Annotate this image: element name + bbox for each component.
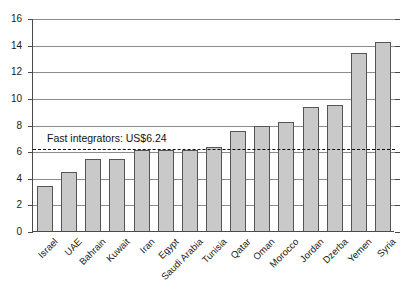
bar-slot	[299, 18, 323, 231]
y-axis-tick-label: 4	[2, 174, 22, 184]
y-axis-tick-right	[395, 19, 400, 20]
y-axis-tick-right	[395, 152, 400, 153]
y-axis-tick-label: 12	[2, 67, 22, 77]
bar	[303, 107, 319, 231]
x-axis-tick-label: Israel	[36, 236, 60, 260]
x-axis-tick-label: Dzerba	[320, 236, 349, 265]
bar-slot	[154, 18, 178, 231]
y-axis-tick-right	[395, 232, 400, 233]
reference-line-label: Fast integrators: US$6.24	[47, 132, 167, 144]
bar	[182, 150, 198, 231]
y-axis-tick-label: 8	[2, 121, 22, 131]
bar	[134, 150, 150, 231]
bar-slot	[130, 18, 154, 231]
y-axis-tick-right	[395, 205, 400, 206]
y-axis-tick-label: 0	[2, 227, 22, 237]
bar-slot	[274, 18, 298, 231]
y-axis-tick-right	[395, 126, 400, 127]
y-axis-tick-right	[395, 179, 400, 180]
bar-slot	[202, 18, 226, 231]
bar	[61, 172, 77, 231]
bar	[375, 42, 391, 231]
bar	[206, 147, 222, 231]
bar-slot	[178, 18, 202, 231]
bar-slot	[105, 18, 129, 231]
x-axis-tick-label: Tunisia	[200, 236, 229, 265]
bar-slot	[81, 18, 105, 231]
x-axis-tick-label: Qatar	[228, 236, 253, 261]
reference-line	[33, 149, 395, 150]
bar	[327, 105, 343, 231]
bar	[158, 150, 174, 231]
y-axis-tick-label: 14	[2, 41, 22, 51]
x-axis-tick-label: Jordan	[297, 236, 325, 264]
y-axis-tick-label: 2	[2, 200, 22, 210]
x-axis-tick-label: Iran	[137, 236, 156, 255]
bar-slot	[323, 18, 347, 231]
y-axis-tick-label: 10	[2, 94, 22, 104]
bar-slot	[57, 18, 81, 231]
bar	[278, 122, 294, 231]
y-axis-tick-right	[395, 72, 400, 73]
x-axis-tick-labels: IsraelUAEBahrainKuwaitIranEgyptSaudi Ara…	[32, 234, 394, 300]
y-axis-tick-right	[395, 46, 400, 47]
bar-slot	[250, 18, 274, 231]
y-axis-tick	[28, 232, 33, 233]
bar	[109, 159, 125, 231]
bar-slot	[371, 18, 395, 231]
bar-series	[33, 18, 395, 231]
y-axis-tick-label: 6	[2, 147, 22, 157]
x-axis-tick-label: Kuwait	[104, 236, 132, 264]
bar-slot	[33, 18, 57, 231]
bar	[230, 131, 246, 231]
bar-chart: 0246810121416 Fast integrators: US$6.24 …	[0, 0, 409, 300]
bar-slot	[226, 18, 250, 231]
bar	[85, 159, 101, 231]
x-axis-tick-label: Yemen	[345, 236, 373, 264]
bar-slot	[347, 18, 371, 231]
y-axis-tick-label: 16	[2, 14, 22, 24]
y-axis-tick-right	[395, 99, 400, 100]
x-axis-tick-label: Syria	[375, 236, 398, 259]
bar	[37, 186, 53, 231]
bar	[351, 53, 367, 231]
plot-area: Fast integrators: US$6.24	[32, 19, 394, 232]
bar	[254, 126, 270, 231]
x-axis-tick-label: Bahrain	[77, 236, 108, 267]
